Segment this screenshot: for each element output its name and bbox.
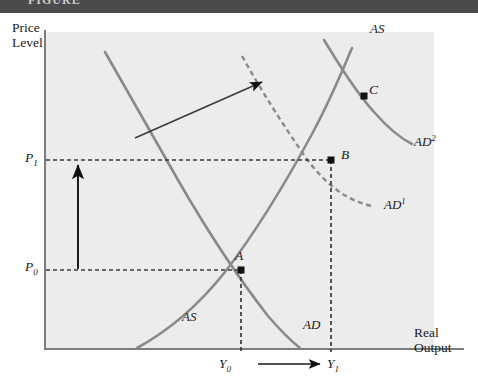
demand-shift-arrow <box>135 82 262 138</box>
y-tick-p1: P1 <box>25 150 38 168</box>
y-tick-p0-base: P <box>25 259 33 274</box>
x-tick-y1: Y1 <box>327 356 339 374</box>
ad2-curve-label-sup: 2 <box>431 133 435 143</box>
ad2-curve-label-base: AD <box>414 134 431 149</box>
y-tick-p1-sub: 1 <box>33 158 38 168</box>
point-c-marker <box>361 93 368 100</box>
x-tick-y0: Y0 <box>219 356 231 374</box>
x-axis-title-line2: Output <box>414 340 452 355</box>
curves-layer <box>0 0 478 386</box>
ad-curve-label: AD <box>303 318 320 333</box>
point-a-marker <box>238 267 245 274</box>
ad1-curve <box>242 56 372 206</box>
y-tick-p0: P0 <box>25 259 38 277</box>
point-a-label: A <box>235 248 243 263</box>
y-axis-title-line1: Price <box>12 20 43 35</box>
ad1-curve-label-base: AD <box>384 197 401 212</box>
figure-container: FIGURE <box>0 0 478 386</box>
y-tick-p1-base: P <box>25 150 33 165</box>
point-b-marker <box>328 157 335 164</box>
x-tick-y0-sub: 0 <box>227 364 232 374</box>
as-curve-label: AS <box>370 22 384 37</box>
ad-curve <box>105 52 300 348</box>
x-tick-y1-base: Y <box>327 356 335 371</box>
as-curve <box>137 48 352 348</box>
x-tick-y1-sub: 1 <box>335 364 340 374</box>
point-b-label: B <box>341 147 349 162</box>
y-axis-title: Price Level <box>12 20 43 50</box>
as-curve-lower-label: AS <box>182 310 196 325</box>
point-c-label: C <box>369 82 378 97</box>
y-tick-p0-sub: 0 <box>33 267 38 277</box>
y-axis-title-line2: Level <box>12 35 43 50</box>
ad2-curve <box>324 40 412 144</box>
ad1-curve-label-sup: 1 <box>401 196 405 206</box>
x-tick-y0-base: Y <box>219 356 227 371</box>
x-axis-title: Real Output <box>414 325 452 355</box>
ad2-curve-label: AD2 <box>414 134 436 150</box>
ad1-curve-label: AD1 <box>384 197 406 213</box>
x-axis-title-line1: Real <box>414 325 452 340</box>
